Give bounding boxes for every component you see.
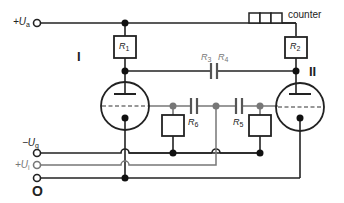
r6-label: R6	[188, 118, 198, 128]
terminal-ground	[34, 175, 41, 182]
circuit-diagram: +Ua −Ug +Ui O I II R1 R2 R3 R4 R6 R5 cou…	[0, 0, 344, 203]
circuit-schematic	[0, 0, 344, 203]
supply-label: +Ua	[13, 17, 30, 28]
terminal-trigger	[34, 162, 41, 169]
grid-bias-label: −Ug	[22, 138, 39, 149]
trigger-label: +Ui	[15, 160, 30, 171]
terminal-grid-bias	[34, 150, 41, 157]
r2-label: R2	[290, 42, 300, 52]
r3-label: R3	[201, 53, 211, 63]
tube-II-label: II	[309, 65, 316, 78]
terminal-supply	[34, 20, 41, 27]
resistor-r5	[249, 115, 271, 136]
counter-label: counter	[288, 10, 321, 20]
trigger-rail	[40, 106, 216, 165]
tube-I-label: I	[77, 50, 81, 63]
r5-label: R5	[233, 118, 243, 128]
ground-label: O	[32, 184, 43, 198]
r4-label: R4	[218, 53, 228, 63]
counter-display	[249, 13, 282, 23]
resistor-r6	[162, 115, 184, 136]
r1-label: R1	[119, 42, 129, 52]
